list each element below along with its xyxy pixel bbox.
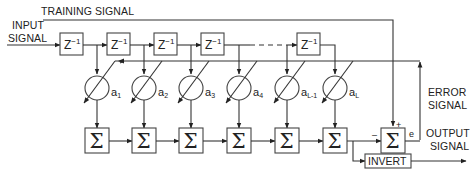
summer-6: Σ xyxy=(323,128,347,153)
svg-text:aL-1: aL-1 xyxy=(301,86,317,99)
input-signal-label-line1: INPUT xyxy=(12,19,44,31)
minus-sign: – xyxy=(372,130,377,140)
delay-3: Z−1 xyxy=(154,33,177,55)
summer-3: Σ xyxy=(179,128,203,153)
error-symbol: e xyxy=(409,129,414,139)
weight-4: a4 xyxy=(226,61,263,103)
error-signal-label-line1: ERROR xyxy=(428,86,467,98)
weight-2: a2 xyxy=(131,61,168,103)
svg-text:Σ: Σ xyxy=(386,129,400,153)
invert-input-line xyxy=(353,141,365,161)
svg-text:Σ: Σ xyxy=(232,129,246,153)
input-signal-label-line2: SIGNAL xyxy=(8,32,47,44)
output-signal-label-line2: SIGNAL xyxy=(430,140,469,152)
summer-5: Σ xyxy=(275,128,299,153)
delay-4: Z−1 xyxy=(201,33,224,55)
svg-text:a1: a1 xyxy=(111,86,121,99)
adaptive-filter-diagram: TRAINING SIGNAL INPUT SIGNAL ERROR SIGNA… xyxy=(0,0,471,173)
delay-1: Z−1 xyxy=(60,33,83,55)
svg-text:aL: aL xyxy=(349,86,359,99)
weight-3: a3 xyxy=(178,61,215,103)
delay-5: Z−1 xyxy=(297,33,320,55)
weight-1: a1 xyxy=(84,61,121,103)
svg-text:a2: a2 xyxy=(158,86,168,99)
training-signal-label: TRAINING SIGNAL xyxy=(41,5,134,17)
svg-text:Σ: Σ xyxy=(90,129,104,153)
output-signal-label-line1: OUTPUT xyxy=(426,127,470,139)
svg-text:Σ: Σ xyxy=(280,129,294,153)
svg-text:a3: a3 xyxy=(205,86,215,99)
error-summer: Σ xyxy=(381,128,405,153)
tap-line-last xyxy=(320,45,335,74)
weight-l: aL xyxy=(322,61,359,103)
svg-text:Σ: Σ xyxy=(137,129,151,153)
svg-text:a4: a4 xyxy=(253,86,263,99)
svg-text:Σ: Σ xyxy=(328,129,342,153)
summer-4: Σ xyxy=(227,128,251,153)
summer-2: Σ xyxy=(132,128,156,153)
error-signal-label-line2: SIGNAL xyxy=(428,99,467,111)
svg-text:INVERT: INVERT xyxy=(368,155,407,167)
svg-text:Σ: Σ xyxy=(184,129,198,153)
delay-2: Z−1 xyxy=(107,33,130,55)
weight-l-1: aL-1 xyxy=(274,61,317,103)
invert-block: INVERT xyxy=(365,154,411,168)
summer-1: Σ xyxy=(85,128,109,153)
